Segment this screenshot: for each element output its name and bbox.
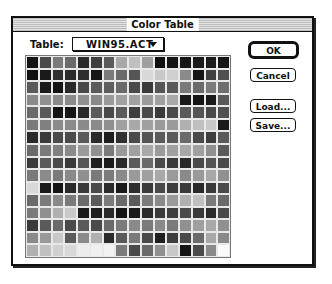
color-swatch[interactable] — [218, 220, 229, 231]
color-swatch[interactable] — [193, 220, 204, 231]
color-swatch[interactable] — [167, 95, 178, 106]
color-swatch[interactable] — [129, 120, 140, 131]
color-swatch[interactable] — [91, 170, 102, 181]
color-swatch[interactable] — [193, 245, 204, 256]
color-swatch[interactable] — [91, 158, 102, 169]
color-swatch[interactable] — [206, 208, 217, 219]
color-swatch[interactable] — [155, 120, 166, 131]
color-swatch[interactable] — [180, 195, 191, 206]
color-swatch[interactable] — [167, 170, 178, 181]
color-swatch[interactable] — [65, 183, 76, 194]
color-swatch[interactable] — [91, 245, 102, 256]
color-swatch[interactable] — [65, 95, 76, 106]
color-swatch[interactable] — [218, 145, 229, 156]
color-swatch[interactable] — [180, 183, 191, 194]
color-swatch[interactable] — [155, 245, 166, 256]
color-swatch[interactable] — [206, 145, 217, 156]
color-swatch[interactable] — [193, 57, 204, 68]
color-swatch[interactable] — [129, 70, 140, 81]
color-swatch[interactable] — [65, 208, 76, 219]
color-swatch[interactable] — [218, 70, 229, 81]
color-swatch[interactable] — [104, 195, 115, 206]
color-swatch[interactable] — [91, 82, 102, 93]
color-swatch[interactable] — [78, 82, 89, 93]
color-swatch[interactable] — [78, 158, 89, 169]
color-swatch[interactable] — [65, 70, 76, 81]
color-swatch[interactable] — [104, 183, 115, 194]
color-swatch[interactable] — [167, 220, 178, 231]
color-swatch[interactable] — [218, 170, 229, 181]
color-swatch[interactable] — [180, 132, 191, 143]
color-swatch[interactable] — [180, 82, 191, 93]
color-swatch[interactable] — [40, 245, 51, 256]
color-swatch[interactable] — [142, 170, 153, 181]
color-swatch[interactable] — [78, 183, 89, 194]
color-swatch[interactable] — [40, 195, 51, 206]
color-swatch[interactable] — [206, 220, 217, 231]
color-swatch[interactable] — [142, 208, 153, 219]
color-swatch[interactable] — [129, 245, 140, 256]
color-swatch[interactable] — [104, 208, 115, 219]
color-swatch[interactable] — [206, 195, 217, 206]
color-swatch[interactable] — [27, 95, 38, 106]
color-swatch[interactable] — [78, 107, 89, 118]
color-swatch[interactable] — [206, 82, 217, 93]
color-swatch[interactable] — [142, 245, 153, 256]
color-swatch[interactable] — [104, 170, 115, 181]
color-swatch[interactable] — [180, 120, 191, 131]
color-swatch[interactable] — [53, 82, 64, 93]
color-swatch[interactable] — [91, 120, 102, 131]
color-swatch[interactable] — [129, 158, 140, 169]
color-swatch[interactable] — [53, 245, 64, 256]
color-swatch[interactable] — [53, 220, 64, 231]
color-swatch[interactable] — [142, 107, 153, 118]
color-swatch[interactable] — [129, 233, 140, 244]
color-swatch[interactable] — [206, 233, 217, 244]
color-swatch[interactable] — [218, 57, 229, 68]
color-swatch[interactable] — [180, 245, 191, 256]
color-swatch[interactable] — [155, 82, 166, 93]
color-swatch[interactable] — [218, 107, 229, 118]
color-swatch[interactable] — [40, 107, 51, 118]
color-swatch[interactable] — [193, 183, 204, 194]
color-swatch[interactable] — [104, 132, 115, 143]
color-swatch[interactable] — [155, 220, 166, 231]
color-swatch[interactable] — [91, 208, 102, 219]
color-swatch[interactable] — [40, 120, 51, 131]
color-swatch[interactable] — [116, 170, 127, 181]
color-swatch[interactable] — [116, 107, 127, 118]
color-swatch[interactable] — [129, 82, 140, 93]
color-swatch[interactable] — [155, 107, 166, 118]
color-swatch[interactable] — [65, 145, 76, 156]
color-swatch[interactable] — [104, 220, 115, 231]
color-swatch[interactable] — [53, 120, 64, 131]
color-swatch[interactable] — [27, 195, 38, 206]
color-swatch[interactable] — [167, 208, 178, 219]
ok-button[interactable]: OK — [248, 41, 299, 59]
color-swatch[interactable] — [91, 220, 102, 231]
color-swatch[interactable] — [27, 170, 38, 181]
color-swatch[interactable] — [155, 145, 166, 156]
color-swatch[interactable] — [65, 195, 76, 206]
color-swatch[interactable] — [65, 57, 76, 68]
color-swatch[interactable] — [206, 107, 217, 118]
color-swatch[interactable] — [129, 107, 140, 118]
color-swatch[interactable] — [193, 158, 204, 169]
color-swatch[interactable] — [129, 132, 140, 143]
color-swatch[interactable] — [116, 220, 127, 231]
color-swatch[interactable] — [180, 170, 191, 181]
color-swatch[interactable] — [193, 107, 204, 118]
color-swatch[interactable] — [65, 158, 76, 169]
color-swatch[interactable] — [65, 170, 76, 181]
color-swatch[interactable] — [206, 120, 217, 131]
color-swatch[interactable] — [206, 57, 217, 68]
color-swatch[interactable] — [27, 57, 38, 68]
color-swatch[interactable] — [27, 208, 38, 219]
color-swatch[interactable] — [155, 208, 166, 219]
color-swatch[interactable] — [193, 82, 204, 93]
color-swatch[interactable] — [167, 245, 178, 256]
color-swatch[interactable] — [65, 107, 76, 118]
color-swatch[interactable] — [193, 145, 204, 156]
title-bar[interactable]: Color Table — [13, 18, 312, 32]
color-swatch[interactable] — [53, 208, 64, 219]
